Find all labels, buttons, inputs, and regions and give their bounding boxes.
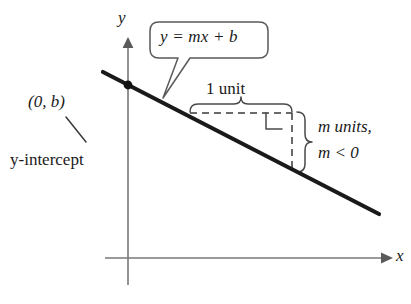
run-brace — [190, 97, 292, 112]
y-axis-arrowhead — [123, 37, 134, 48]
right-angle-marker-icon — [266, 113, 282, 129]
rise-brace — [297, 112, 312, 172]
rise-label-line-2: m < 0 — [318, 143, 359, 162]
y-intercept-text-label: y-intercept — [10, 150, 84, 169]
y-intercept-dot — [124, 81, 133, 90]
run-label: 1 unit — [206, 79, 245, 98]
intercept-leader-line — [66, 117, 86, 142]
x-axis-arrowhead — [381, 253, 393, 264]
y-axis-label: y — [118, 8, 126, 27]
slope-intercept-figure: y x y = mx + b (0, b) y-intercept 1 unit… — [0, 0, 411, 304]
intercept-point-label: (0, b) — [28, 92, 65, 111]
x-axis-label: x — [396, 246, 404, 265]
rise-label-line-1: m units, — [318, 117, 372, 136]
equation-label: y = mx + b — [160, 27, 238, 46]
